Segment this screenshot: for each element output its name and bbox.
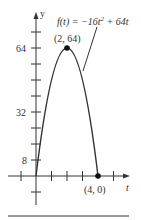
root-label: (4, 0) [84,184,106,196]
vertex-point [64,45,70,51]
root-point [95,173,101,179]
parabola-curve [36,48,98,176]
equation-label: f(t) = −16t2 + 64t [57,15,129,28]
x-axis-label: t [126,182,129,193]
y-tick-label-64: 64 [16,43,26,54]
equation-leader-line [83,27,97,71]
equation-main: f(t) = −16t [57,16,101,28]
y-tick-label-32: 32 [16,107,26,118]
chart-canvas: y t f(t) = −16t2 + 64t (2, 64) (4, 0) 64… [0,0,141,220]
vertex-label: (2, 64) [54,33,81,45]
equation-tail: + 64t [104,16,129,27]
y-axis-arrow-icon [34,12,39,19]
y-tick-label-8: 8 [22,155,27,166]
y-axis-label: y [40,8,45,19]
x-axis-arrow-icon [123,174,130,179]
